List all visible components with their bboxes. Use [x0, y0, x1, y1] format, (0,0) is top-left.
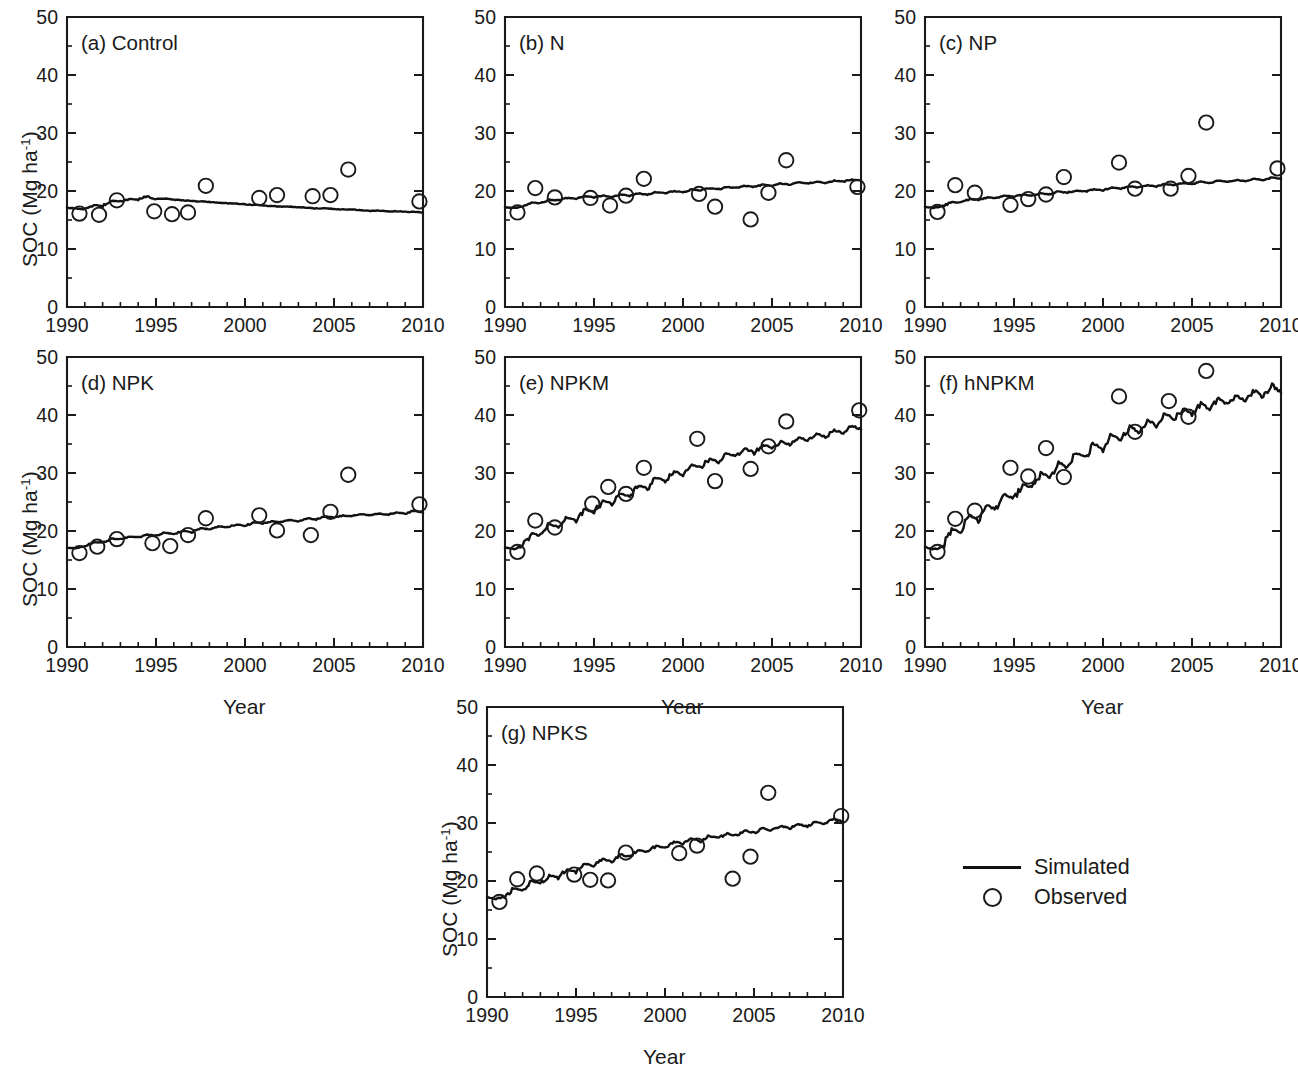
- simulated-line: [925, 383, 1281, 549]
- plot-area-f: 0102030405019901995200020052010(f) hNPKM: [858, 340, 1298, 680]
- y-tick-label: 40: [456, 754, 478, 776]
- y-tick-label: 20: [894, 520, 916, 542]
- x-tick-label: 2005: [750, 654, 794, 676]
- y-tick-label: 10: [894, 238, 916, 260]
- y-tick-label: 50: [474, 6, 496, 28]
- y-axis-title-text: SOC (Mg ha-1): [18, 131, 41, 267]
- observed-point: [1057, 170, 1071, 184]
- observed-point: [1162, 394, 1176, 408]
- legend-label-observed: Observed: [1034, 885, 1127, 910]
- observed-point: [528, 181, 542, 195]
- observed-point: [528, 513, 542, 527]
- x-tick-label: 2000: [1081, 654, 1125, 676]
- observed-point: [181, 528, 195, 542]
- plot-area-a: 0102030405019901995200020052010(a) Contr…: [0, 0, 440, 340]
- y-tick-label: 10: [474, 238, 496, 260]
- axis-frame: [67, 357, 423, 647]
- x-tick-label: 2005: [1170, 654, 1214, 676]
- observed-point: [165, 207, 179, 221]
- x-tick-label: 1995: [572, 314, 616, 336]
- observed-point: [779, 153, 793, 167]
- observed-point: [637, 172, 651, 186]
- x-tick-label: 2005: [312, 314, 356, 336]
- observed-point: [743, 849, 757, 863]
- plot-area-g: 0102030405019901995200020052010(g) NPKS: [420, 690, 860, 1030]
- observed-point: [92, 208, 106, 222]
- y-tick-label: 40: [894, 64, 916, 86]
- observed-point: [761, 186, 775, 200]
- x-tick-label: 2005: [1170, 314, 1214, 336]
- axis-frame: [925, 17, 1281, 307]
- x-tick-label: 1990: [483, 314, 527, 336]
- axis-frame: [67, 17, 423, 307]
- x-axis-title: Year: [1081, 695, 1123, 719]
- x-tick-label: 2000: [223, 654, 267, 676]
- y-axis-title: SOC (Mg ha-1): [438, 821, 462, 957]
- y-tick-label: 40: [36, 404, 58, 426]
- x-tick-label: 2005: [732, 1004, 776, 1026]
- x-tick-label: 1990: [45, 654, 89, 676]
- observed-point: [252, 191, 266, 205]
- panel-label: (e) NPKM: [519, 371, 609, 394]
- axis-frame: [505, 357, 861, 647]
- observed-point: [601, 873, 615, 887]
- observed-point: [341, 468, 355, 482]
- observed-point: [708, 474, 722, 488]
- observed-point: [1003, 461, 1017, 475]
- observed-point: [567, 867, 581, 881]
- y-tick-label: 50: [456, 696, 478, 718]
- x-tick-label: 1995: [554, 1004, 598, 1026]
- x-tick-label: 1995: [992, 314, 1036, 336]
- x-tick-label: 1990: [903, 654, 947, 676]
- observed-point: [199, 511, 213, 525]
- observed-point: [725, 871, 739, 885]
- observed-point: [1003, 198, 1017, 212]
- y-tick-label: 50: [474, 346, 496, 368]
- x-tick-label: 1995: [572, 654, 616, 676]
- observed-point: [270, 523, 284, 537]
- y-axis-title: SOC (Mg ha-1): [18, 131, 42, 267]
- y-axis-title-text: SOC (Mg ha-1): [438, 821, 461, 957]
- observed-point: [968, 504, 982, 518]
- observed-point: [692, 187, 706, 201]
- x-tick-label: 1995: [134, 314, 178, 336]
- y-tick-label: 50: [36, 6, 58, 28]
- panel-d-npk: 0102030405019901995200020052010(d) NPKYe…: [0, 340, 440, 680]
- observed-point: [601, 480, 615, 494]
- observed-point: [585, 497, 599, 511]
- legend-row-observed: Observed: [960, 882, 1130, 912]
- observed-point: [637, 461, 651, 475]
- y-tick-label: 30: [474, 122, 496, 144]
- observed-point: [948, 178, 962, 192]
- panel-a-control: 0102030405019901995200020052010(a) Contr…: [0, 0, 440, 340]
- y-axis-title-text: SOC (Mg ha-1): [18, 471, 41, 607]
- x-tick-label: 2000: [661, 314, 705, 336]
- axis-frame: [925, 357, 1281, 647]
- legend-circle-marker: [960, 888, 1024, 907]
- y-tick-label: 40: [474, 64, 496, 86]
- plot-area-d: 0102030405019901995200020052010(d) NPK: [0, 340, 440, 680]
- figure-legend: Simulated Observed: [960, 852, 1130, 912]
- observed-point: [304, 528, 318, 542]
- x-tick-label: 1990: [903, 314, 947, 336]
- plot-area-b: 0102030405019901995200020052010(b) N: [438, 0, 878, 340]
- x-axis-title: Year: [223, 695, 265, 719]
- observed-point: [530, 866, 544, 880]
- observed-point: [1199, 364, 1213, 378]
- observed-point: [743, 462, 757, 476]
- panel-c-np: 0102030405019901995200020052010(c) NP: [858, 0, 1298, 340]
- observed-point: [412, 497, 426, 511]
- simulated-line: [487, 818, 843, 899]
- observed-point: [181, 205, 195, 219]
- panel-label: (b) N: [519, 31, 565, 54]
- y-tick-label: 20: [894, 180, 916, 202]
- y-tick-label: 40: [36, 64, 58, 86]
- simulated-line: [67, 511, 423, 549]
- y-tick-label: 50: [894, 6, 916, 28]
- legend-label-simulated: Simulated: [1034, 855, 1130, 880]
- y-tick-label: 30: [894, 462, 916, 484]
- observed-point: [1199, 115, 1213, 129]
- x-tick-label: 2010: [821, 1004, 865, 1026]
- y-tick-label: 30: [474, 462, 496, 484]
- legend-row-simulated: Simulated: [960, 852, 1130, 882]
